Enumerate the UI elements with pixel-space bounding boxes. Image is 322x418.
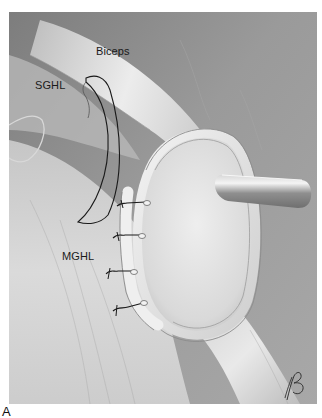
artist-signature [282,368,310,402]
sghl-label: SGHL [35,80,65,91]
mghl-label: MGHL [62,251,94,262]
illustration-frame [9,12,317,404]
biceps-label: Biceps [96,46,130,57]
panel-letter: A [2,405,11,418]
shoulder-repair-illustration: Biceps SGHL MGHL A [0,0,322,418]
illustration-artwork [9,12,317,404]
